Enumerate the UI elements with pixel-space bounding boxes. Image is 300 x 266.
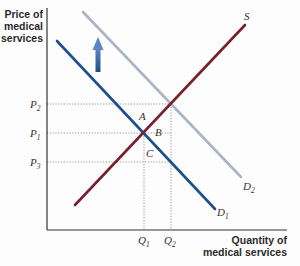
demand-shift-arrow-icon (93, 37, 104, 72)
y-tick-p1: P1 (29, 127, 40, 142)
point-label-b: B (155, 126, 162, 138)
y-axis-title-line-2: medical (4, 20, 43, 32)
y-tick-p2: P2 (29, 98, 41, 113)
y-axis-title: Price of medical services (1, 8, 44, 44)
x-tick-q2: Q2 (164, 234, 176, 249)
x-axis-title: Quantity of medical services (203, 234, 288, 258)
y-axis-title-line-3: services (1, 32, 43, 44)
x-axis-title-line-2: medical services (203, 246, 287, 258)
supply-demand-chart: Price of medical services P2 (0, 0, 300, 266)
y-tick-p3: P3 (29, 156, 41, 171)
label-s: S (244, 10, 250, 22)
x-tick-q1: Q1 (138, 234, 150, 249)
point-label-c: C (146, 147, 154, 159)
y-axis-title-line-1: Price of (4, 8, 43, 20)
point-label-a: A (138, 110, 146, 122)
x-tick-labels: Q1 Q2 (138, 234, 176, 249)
y-tick-labels: P2 P1 P3 (29, 98, 41, 171)
x-axis-title-line-1: Quantity of (232, 234, 288, 246)
label-d1: D1 (216, 206, 229, 221)
label-d2: D2 (242, 180, 255, 195)
chart-canvas: Price of medical services P2 (0, 0, 300, 266)
